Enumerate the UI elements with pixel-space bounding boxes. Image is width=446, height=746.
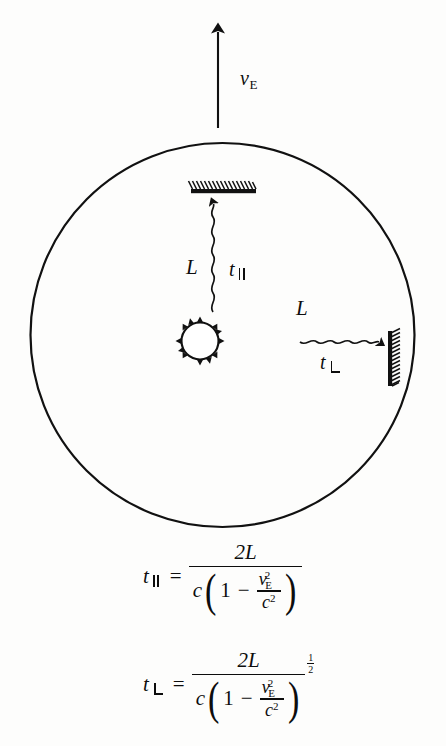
- equation-perpendicular-lhs: t: [143, 672, 164, 697]
- eq2-fraction: 2L c ( 1 − v2E c2: [192, 648, 306, 721]
- eq1-v-subscript: E: [265, 579, 272, 591]
- figure-root: vE L t L t t = 2L c ( 1 −: [0, 0, 446, 746]
- eq1-one: 1: [220, 578, 231, 603]
- eq1-paren-open: (: [205, 574, 216, 607]
- equation-perpendicular: t = 2L c ( 1 − v2E c2: [143, 648, 314, 721]
- earth-circle: [31, 143, 415, 527]
- eq1-t-symbol: t: [143, 564, 149, 588]
- eq2-inner-fraction: v2E c2: [260, 677, 284, 720]
- eq2-exponent-numerator: 1: [308, 652, 313, 663]
- eq2-paren-close: ): [288, 682, 299, 715]
- time-perpendicular-symbol: t: [320, 351, 326, 373]
- eq1-numerator: 2L: [227, 540, 263, 566]
- eq1-den-c: c: [193, 578, 202, 603]
- eq1-c-symbol: c: [262, 592, 270, 612]
- time-parallel-symbol: t: [229, 258, 235, 280]
- time-perpendicular-label: t: [320, 352, 341, 373]
- vertical-light-beam: [212, 204, 215, 312]
- length-label-vertical: L: [186, 257, 198, 278]
- eq2-c-symbol: c: [265, 700, 273, 720]
- eq2-c-exponent: 2: [273, 700, 279, 712]
- eq2-one: 1: [223, 686, 234, 711]
- eq1-denominator: c ( 1 − v2E c2 ): [189, 567, 303, 612]
- velocity-subscript: E: [249, 77, 257, 92]
- equation-parallel-lhs: t: [143, 564, 161, 589]
- time-parallel-label: t: [229, 259, 247, 280]
- eq1-inner-numerator: v2E: [257, 569, 281, 590]
- eq1-inner-fraction: v2E c2: [257, 569, 281, 612]
- eq1-inner-denominator: c2: [260, 592, 278, 613]
- right-mirror: [388, 329, 400, 387]
- eq1-minus: −: [238, 578, 250, 603]
- eq1-inner-group: 1 − v2E c2: [218, 569, 283, 612]
- top-mirror: [189, 181, 257, 193]
- parallel-symbol-icon: [238, 267, 247, 280]
- eq1-equals: =: [170, 564, 182, 589]
- eq2-inner-numerator: v2E: [260, 677, 284, 698]
- eq2-exponent-one-half: 1 2: [307, 652, 314, 675]
- eq1-c-exponent: 2: [270, 592, 276, 604]
- eq2-perpendicular-symbol-icon: [153, 682, 164, 695]
- eq2-exponent-denominator: 2: [308, 664, 313, 675]
- eq2-inner-denominator: c2: [263, 700, 281, 721]
- velocity-symbol: v: [240, 67, 249, 89]
- eq2-den-c: c: [196, 686, 205, 711]
- eq1-parallel-symbol-icon: [152, 574, 161, 587]
- equation-parallel: t = 2L c ( 1 − v2E c2: [143, 540, 302, 613]
- eq1-fraction: 2L c ( 1 − v2E c2: [189, 540, 303, 613]
- velocity-label: vE: [240, 68, 257, 91]
- eq1-paren-close: ): [285, 574, 296, 607]
- eq2-minus: −: [241, 686, 253, 711]
- light-source-sun-icon: [176, 317, 225, 366]
- eq2-inner-group: 1 − v2E c2: [221, 677, 286, 720]
- eq2-equals: =: [173, 672, 185, 697]
- eq2-t-symbol: t: [143, 672, 149, 696]
- eq2-v-subscript: E: [268, 687, 275, 699]
- perpendicular-symbol-icon: [330, 360, 341, 373]
- eq2-denominator: c ( 1 − v2E c2 ): [192, 675, 306, 720]
- eq2-numerator: 2L: [230, 648, 266, 674]
- eq2-paren-open: (: [208, 682, 219, 715]
- diagram-canvas: [0, 0, 446, 746]
- length-label-horizontal: L: [296, 298, 308, 319]
- horizontal-light-beam: [300, 341, 379, 344]
